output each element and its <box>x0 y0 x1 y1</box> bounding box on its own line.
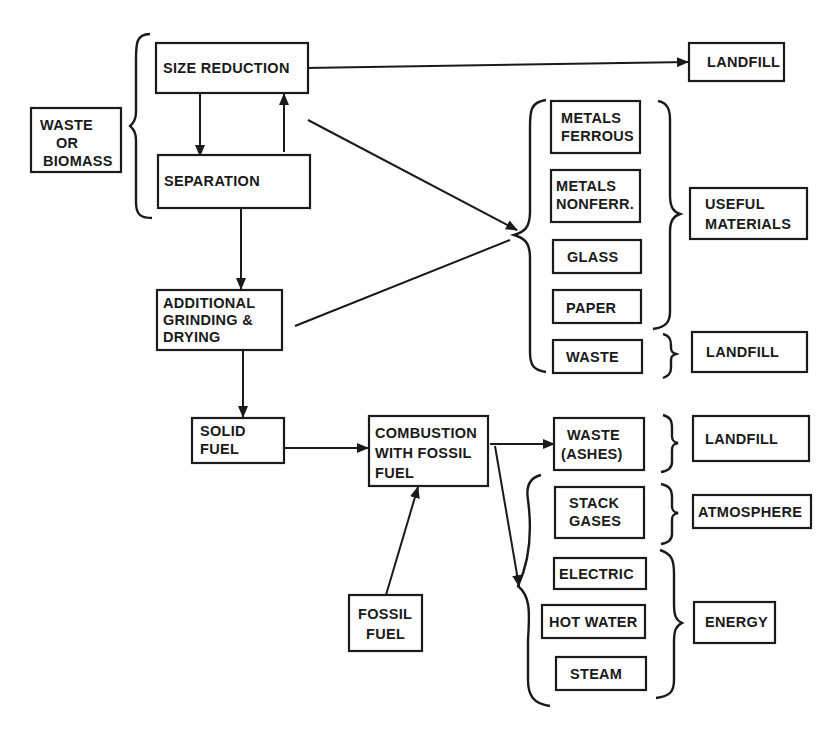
svg-text:SEPARATION: SEPARATION <box>164 173 260 189</box>
svg-text:ADDITIONAL: ADDITIONAL <box>163 295 255 311</box>
process-flow-diagram: WASTE OR BIOMASS SIZE REDUCTION SEPARATI… <box>0 0 837 745</box>
node-solid-fuel: SOLID FUEL <box>192 418 284 463</box>
svg-text:STACK: STACK <box>569 495 620 511</box>
right-brace-waste-landfill <box>663 334 676 378</box>
svg-text:MATERIALS: MATERIALS <box>705 216 791 232</box>
svg-text:SIZE REDUCTION: SIZE REDUCTION <box>163 60 290 76</box>
node-waste-separated: WASTE <box>553 340 642 373</box>
node-landfill-top: LANDFILL <box>689 43 784 81</box>
svg-text:WITH FOSSIL: WITH FOSSIL <box>375 445 472 461</box>
svg-text:SOLID: SOLID <box>200 423 246 439</box>
node-stack-gases: STACK GASES <box>555 487 644 538</box>
node-waste-ashes: WASTE (ASHES) <box>554 418 644 470</box>
svg-text:ENERGY: ENERGY <box>705 614 768 630</box>
node-fossil-fuel: FOSSIL FUEL <box>349 595 422 651</box>
svg-text:FERROUS: FERROUS <box>561 128 634 144</box>
svg-text:GLASS: GLASS <box>567 249 618 265</box>
svg-text:(ASHES): (ASHES) <box>561 446 623 462</box>
svg-text:PAPER: PAPER <box>566 300 617 316</box>
svg-text:WASTE: WASTE <box>567 427 620 443</box>
svg-text:GRINDING &: GRINDING & <box>163 312 253 328</box>
node-combustion-with-fossil-fuel: COMBUSTION WITH FOSSIL FUEL <box>369 416 488 486</box>
node-landfill-bottom: LANDFILL <box>693 416 809 461</box>
right-brace-stack-atmosphere <box>661 484 678 544</box>
node-separation: SEPARATION <box>158 155 310 208</box>
svg-text:FUEL: FUEL <box>366 626 405 642</box>
svg-text:DRYING: DRYING <box>163 329 221 345</box>
node-electric: ELECTRIC <box>554 558 646 589</box>
svg-text:LANDFILL: LANDFILL <box>705 431 778 447</box>
node-steam: STEAM <box>556 657 646 690</box>
node-metals-nonferrous: METALS NONFERR. <box>551 170 640 222</box>
svg-text:BIOMASS: BIOMASS <box>43 153 113 169</box>
svg-text:FUEL: FUEL <box>375 465 414 481</box>
svg-text:METALS: METALS <box>561 110 621 126</box>
svg-text:ELECTRIC: ELECTRIC <box>559 566 634 582</box>
left-brace-combustion-outputs <box>518 475 550 706</box>
node-size-reduction: SIZE REDUCTION <box>156 43 308 93</box>
edge-size-reduction-to-materials <box>308 120 517 230</box>
svg-text:OR: OR <box>56 135 79 151</box>
svg-text:WASTE: WASTE <box>566 349 619 365</box>
svg-text:FOSSIL: FOSSIL <box>358 606 412 622</box>
left-brace-pretreatment <box>130 34 152 218</box>
node-energy: ENERGY <box>694 602 775 643</box>
svg-text:METALS: METALS <box>556 178 616 194</box>
right-brace-ashes-landfill <box>661 415 678 472</box>
svg-text:FUEL: FUEL <box>200 441 239 457</box>
svg-text:STEAM: STEAM <box>570 666 622 682</box>
edge-grinding-to-materials <box>295 240 510 326</box>
right-brace-useful-materials <box>653 101 680 329</box>
node-metals-ferrous: METALS FERROUS <box>551 101 640 153</box>
svg-text:LANDFILL: LANDFILL <box>706 344 779 360</box>
right-brace-energy <box>656 550 682 698</box>
node-hot-water: HOT WATER <box>542 605 645 638</box>
edge-size-reduction-to-landfill <box>305 62 688 68</box>
node-atmosphere: ATMOSPHERE <box>693 495 811 528</box>
node-useful-materials: USEFUL MATERIALS <box>690 188 807 239</box>
svg-text:LANDFILL: LANDFILL <box>707 54 780 70</box>
svg-text:COMBUSTION: COMBUSTION <box>375 425 477 441</box>
svg-text:NONFERR.: NONFERR. <box>556 196 634 212</box>
svg-text:GASES: GASES <box>569 513 621 529</box>
edge-combustion-to-outputs <box>495 446 519 586</box>
svg-text:USEFUL: USEFUL <box>705 196 765 212</box>
node-glass: GLASS <box>553 240 641 273</box>
node-paper: PAPER <box>553 290 641 323</box>
left-brace-recovered-materials <box>514 100 546 372</box>
node-additional-grinding-drying: ADDITIONAL GRINDING & DRYING <box>157 290 282 350</box>
svg-text:HOT WATER: HOT WATER <box>549 614 638 630</box>
edge-fossil-fuel-to-combustion <box>386 487 418 595</box>
svg-text:ATMOSPHERE: ATMOSPHERE <box>698 504 802 520</box>
svg-text:WASTE: WASTE <box>40 117 93 133</box>
node-waste-or-biomass: WASTE OR BIOMASS <box>31 108 121 172</box>
node-landfill-mid: LANDFILL <box>692 332 807 372</box>
